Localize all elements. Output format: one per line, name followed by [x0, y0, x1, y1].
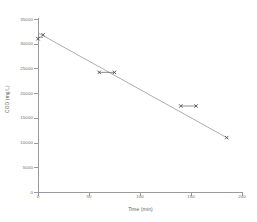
y-axis-tick: [34, 118, 38, 119]
y-axis-tick: [34, 143, 38, 144]
trendline: [38, 33, 227, 138]
x-axis-tick-label: 0: [28, 194, 48, 199]
marker-stroke: [98, 71, 101, 74]
y-axis-line: [38, 18, 39, 193]
x-axis-tick-label: 50: [79, 194, 99, 199]
y-axis-tick-label: 20000: [20, 91, 33, 96]
y-axis-tick-label: 30000: [20, 41, 33, 46]
x-axis-tick-label: 150: [181, 194, 201, 199]
y-axis-tick-label: 5000: [23, 165, 33, 170]
y-axis-tick: [34, 68, 38, 69]
y-axis-tick: [34, 19, 38, 20]
marker-stroke: [225, 136, 228, 139]
x-axis-title: Time (min): [38, 207, 243, 213]
y-axis-tick: [34, 44, 38, 45]
marker-stroke: [194, 104, 197, 107]
data-point-marker: [113, 71, 116, 74]
y-axis-tick-label: 15000: [20, 115, 33, 120]
data-point-marker: [194, 104, 197, 107]
y-axis-tick-label: 10000: [20, 140, 33, 145]
y-axis-tick-label: 35000: [20, 17, 33, 22]
marker-stroke: [179, 104, 182, 107]
y-axis-tick: [34, 93, 38, 94]
x-axis-tick-label: 200: [232, 194, 252, 199]
data-point-marker: [98, 71, 101, 74]
y-axis-tick: [34, 167, 38, 168]
y-axis-title: COD (mg/L): [5, 73, 11, 125]
marker-stroke: [113, 71, 116, 74]
marker-stroke: [194, 104, 197, 107]
marker-stroke: [225, 136, 228, 139]
data-point-marker: [179, 104, 182, 107]
data-point-marker: [225, 136, 228, 139]
marker-stroke: [41, 33, 44, 36]
chart-container: 05000100001500020000250003000035000 0501…: [0, 0, 257, 222]
data-point-marker: [41, 33, 44, 36]
marker-stroke: [113, 71, 116, 74]
x-axis-tick-label: 100: [130, 194, 150, 199]
marker-stroke: [98, 71, 101, 74]
marker-stroke: [179, 104, 182, 107]
y-axis-tick-label: 25000: [20, 66, 33, 71]
marker-stroke: [41, 33, 44, 36]
